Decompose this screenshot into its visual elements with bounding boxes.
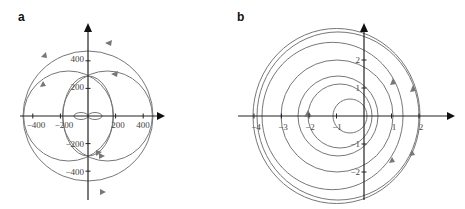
x-tick-label: −3 bbox=[278, 122, 288, 132]
y-tick-label: −200 bbox=[65, 139, 84, 149]
y-tick-label: 400 bbox=[71, 54, 85, 64]
figure: a −400 −200 200 400 400 200 −200 −400 bbox=[0, 0, 465, 209]
panel-a: a −400 −200 200 400 400 200 −200 −400 bbox=[18, 10, 165, 200]
x-tick-label: −2 bbox=[305, 122, 315, 132]
x-tick-label: 1 bbox=[392, 122, 397, 132]
flow-arrow-icon bbox=[409, 150, 415, 156]
y-tick-label: −1 bbox=[350, 139, 360, 149]
flow-arrow-icon bbox=[100, 189, 106, 195]
x-tick-label: −1 bbox=[332, 122, 342, 132]
x-tick-label: −4 bbox=[251, 122, 261, 132]
panel-b: b −4 −3 −2 −1 1 2 2 1 −1 −2 bbox=[237, 10, 455, 204]
flow-arrow-icon bbox=[40, 81, 46, 87]
y-axis-arrow-icon bbox=[360, 23, 368, 32]
x-tick-label: 200 bbox=[111, 120, 125, 130]
x-tick-label: 2 bbox=[419, 122, 424, 132]
x-tick-label: −400 bbox=[27, 120, 46, 130]
x-axis-arrow-icon bbox=[447, 112, 455, 120]
panel-a-label: a bbox=[18, 10, 25, 24]
panel-b-label: b bbox=[237, 10, 244, 24]
x-axis-arrow-icon bbox=[157, 112, 165, 120]
flow-arrow-icon bbox=[41, 52, 47, 58]
flow-arrow-icon bbox=[304, 110, 312, 117]
flow-arrow-icon bbox=[389, 157, 395, 163]
x-tick-label: 400 bbox=[136, 120, 150, 130]
flow-arrow-icon bbox=[99, 153, 105, 159]
y-tick-label: −400 bbox=[65, 167, 84, 177]
y-tick-label: 200 bbox=[71, 82, 85, 92]
y-tick-label: −2 bbox=[350, 167, 360, 177]
y-tick-label: 2 bbox=[356, 55, 361, 65]
y-tick-label: 1 bbox=[356, 83, 361, 93]
x-tick-label: −200 bbox=[55, 120, 74, 130]
y-axis-arrow-icon bbox=[84, 23, 92, 32]
flow-arrow-icon bbox=[105, 40, 112, 46]
